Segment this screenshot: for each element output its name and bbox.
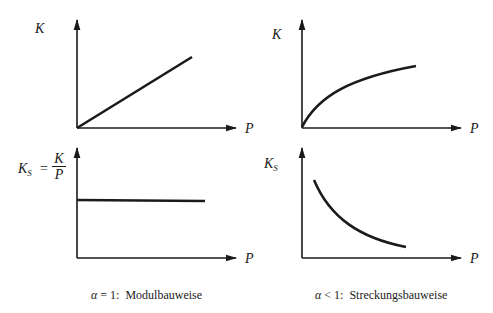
panel-top-left [77,20,236,128]
decreasing-specific-cost-curve [314,180,406,247]
fraction-denominator: P [52,167,66,182]
ks-symbol: KS [18,162,32,178]
caption-relation: < 1: [321,288,343,302]
ks-main: K [264,156,273,171]
constant-specific-cost-line [77,200,205,201]
ks-main: K [18,161,27,176]
panel-bottom-right [302,148,461,258]
fraction-numerator: K [52,151,66,167]
linear-cost-curve [77,57,192,128]
top-right-x-label: P [470,122,479,136]
equals-sign: = [40,162,48,176]
bottom-right-x-label: P [470,252,479,266]
bottom-right-y-label: KS [264,157,278,173]
ks-subscript: S [27,168,32,178]
ks-subscript: S [273,163,278,173]
top-right-y-label: K [272,28,281,42]
concave-cost-curve [302,66,416,127]
bottom-left-x-label: P [245,252,254,266]
caption-text: Modulbauweise [125,288,202,302]
panel-top-right [302,20,461,128]
diagram-canvas [0,0,493,313]
panel-bottom-left [77,148,236,258]
caption-modulbauweise: α = 1: Modulbauweise [91,288,202,303]
caption-streckungsbauweise: α < 1: Streckungsbauweise [315,288,447,303]
top-left-x-label: P [245,122,254,136]
caption-text: Streckungsbauweise [349,288,447,302]
caption-relation: = 1: [97,288,119,302]
top-left-y-label: K [35,22,44,36]
k-over-p-fraction: K P [52,151,66,182]
